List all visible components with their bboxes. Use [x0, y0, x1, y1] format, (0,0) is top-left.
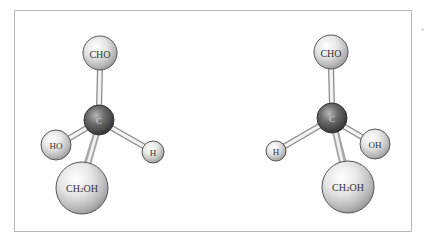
- atom-carbon: C: [317, 103, 347, 133]
- atom-ch2oh: CH2OH: [322, 161, 374, 213]
- atom-label-c: C: [329, 114, 335, 124]
- atom-label-cho: CHO: [320, 48, 341, 59]
- atom-label-oh: OH: [369, 140, 382, 150]
- atom-label-h: H: [150, 148, 157, 158]
- atom-cho: CHO: [83, 36, 117, 70]
- atom-label-ho: HO: [50, 141, 63, 151]
- atom-label-c: C: [96, 116, 102, 126]
- atom-label-h: H: [273, 147, 280, 157]
- molecule-left: CHO HO H C CH2OH: [41, 36, 164, 214]
- atom-carbon: C: [84, 105, 114, 135]
- atom-oh: OH: [360, 129, 390, 159]
- atom-label-cho: CHO: [89, 49, 110, 60]
- atom-ho: HO: [41, 130, 71, 160]
- atom-cho: CHO: [314, 35, 348, 69]
- atom-h: H: [266, 141, 286, 161]
- molecule-right: CHO H OH C CH2OH: [266, 35, 390, 213]
- atom-ch2oh: CH2OH: [56, 162, 108, 214]
- atom-h: H: [142, 141, 164, 163]
- molecule-diagram: CHO HO H C CH2OH: [0, 0, 430, 242]
